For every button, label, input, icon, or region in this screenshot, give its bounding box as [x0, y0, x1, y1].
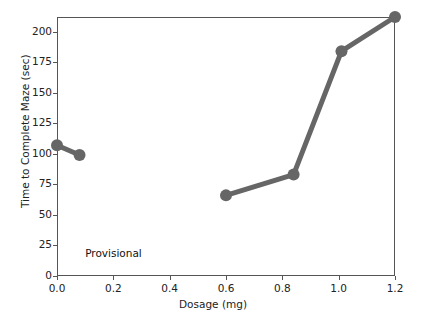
data-point-marker: [51, 139, 63, 151]
x-tick-mark: [282, 276, 283, 280]
data-point-marker: [335, 45, 347, 57]
data-point-marker: [288, 169, 300, 181]
y-tick-label: 100: [32, 148, 52, 159]
x-tick-label: 0.0: [37, 283, 77, 294]
x-tick-label: 1.2: [375, 283, 415, 294]
x-tick-mark: [57, 276, 58, 280]
data-point-marker: [220, 189, 232, 201]
chart-annotation: Provisional: [85, 248, 142, 259]
y-tick-label: 0: [45, 270, 52, 281]
y-tick-label: 50: [39, 209, 52, 220]
y-tick-label: 150: [32, 87, 52, 98]
x-tick-label: 0.8: [262, 283, 302, 294]
y-axis-label: Time to Complete Maze (sec): [20, 11, 31, 251]
x-axis-label: Dosage (mg): [0, 299, 426, 310]
x-tick-label: 0.2: [93, 283, 133, 294]
y-tick-label: 175: [32, 56, 52, 67]
x-tick-mark: [226, 276, 227, 280]
chart-data-layer: [57, 17, 395, 276]
series-line: [226, 17, 395, 195]
data-point-marker: [389, 11, 401, 23]
x-tick-label: 0.6: [206, 283, 246, 294]
data-point-marker: [74, 149, 86, 161]
x-tick-mark: [339, 276, 340, 280]
x-tick-label: 0.4: [150, 283, 190, 294]
x-tick-mark: [170, 276, 171, 280]
y-tick-label: 75: [39, 178, 52, 189]
y-tick-label: 200: [32, 26, 52, 37]
y-tick-label: 125: [32, 117, 52, 128]
chart-figure: 02550751001251501752000.00.20.40.60.81.0…: [0, 0, 426, 317]
x-tick-mark: [113, 276, 114, 280]
x-tick-label: 1.0: [319, 283, 359, 294]
x-tick-mark: [395, 276, 396, 280]
y-tick-label: 25: [39, 239, 52, 250]
